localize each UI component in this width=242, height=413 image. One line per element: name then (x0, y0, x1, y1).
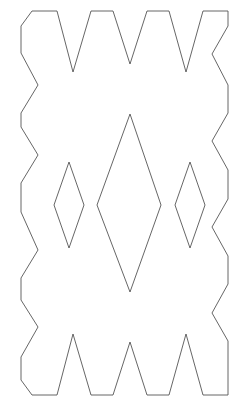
geometric-figure-canvas (0, 0, 242, 413)
